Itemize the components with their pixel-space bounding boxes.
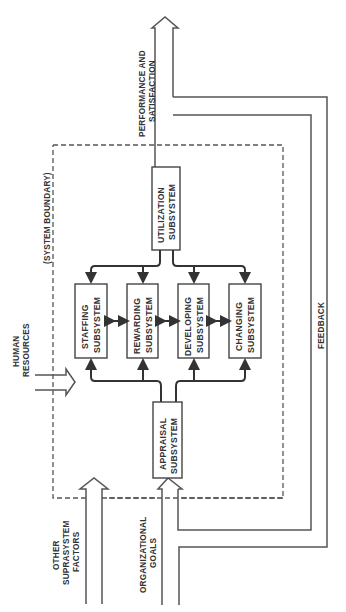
changing-label-1: CHANGING [234,302,244,351]
system-boundary-label: (SYSTEM BOUNDARY) [43,172,52,264]
rewarding-label-2: SUBSYSTEM [144,297,154,353]
staffing-label-2: SUBSYSTEM [92,297,102,353]
staffing-label-1: STAFFING [80,304,90,349]
organizational-goals-label-2: GOALS [149,538,158,568]
developing-label-1: DEVELOPING [183,297,193,356]
appraisal-label-2: SUBSYSTEM [169,418,179,474]
human-resources-label-2: RESOURCES [22,323,31,377]
changing-subsystem: CHANGING SUBSYSTEM [229,284,261,358]
other-suprasystem-label-1: OTHER [52,540,61,570]
utilization-label-1: UTILIZATION [156,187,166,243]
performance-label-1: PERFORMANCE AND [138,50,147,137]
utilization-subsystem: UTILIZATION SUBSYSTEM [152,167,180,250]
other-suprasystem-label-2: SUPRASYSTEM [62,520,71,585]
staffing-subsystem: STAFFING SUBSYSTEM [75,284,107,358]
rewarding-subsystem: REWARDING SUBSYSTEM [127,284,158,358]
performance-label-2: SATISFACTION [148,60,157,122]
bottom-branch-connectors [91,364,245,402]
feedback-label: FEEDBACK [317,302,326,349]
changing-label-2: SUBSYSTEM [246,297,256,353]
human-resources-label-1: HUMAN [12,336,21,367]
developing-subsystem: DEVELOPING SUBSYSTEM [178,284,209,358]
organizational-goals-label-1: ORGANIZATIONAL [139,517,148,593]
appraisal-label-1: APPRAISAL [158,418,168,470]
other-suprasystem-arrow [80,478,108,604]
developing-label-2: SUBSYSTEM [195,297,205,353]
other-suprasystem-label-3: FACTORS [72,531,81,572]
human-resources-arrow [35,369,75,395]
hr-system-diagram: UTILIZATION SUBSYSTEM STAFFING SUBSYSTEM… [0,0,346,612]
utilization-label-2: SUBSYSTEM [167,184,177,240]
appraisal-subsystem: APPRAISAL SUBSYSTEM [153,402,182,478]
rewarding-label-1: REWARDING [132,298,142,354]
top-branch-connectors [91,250,245,278]
